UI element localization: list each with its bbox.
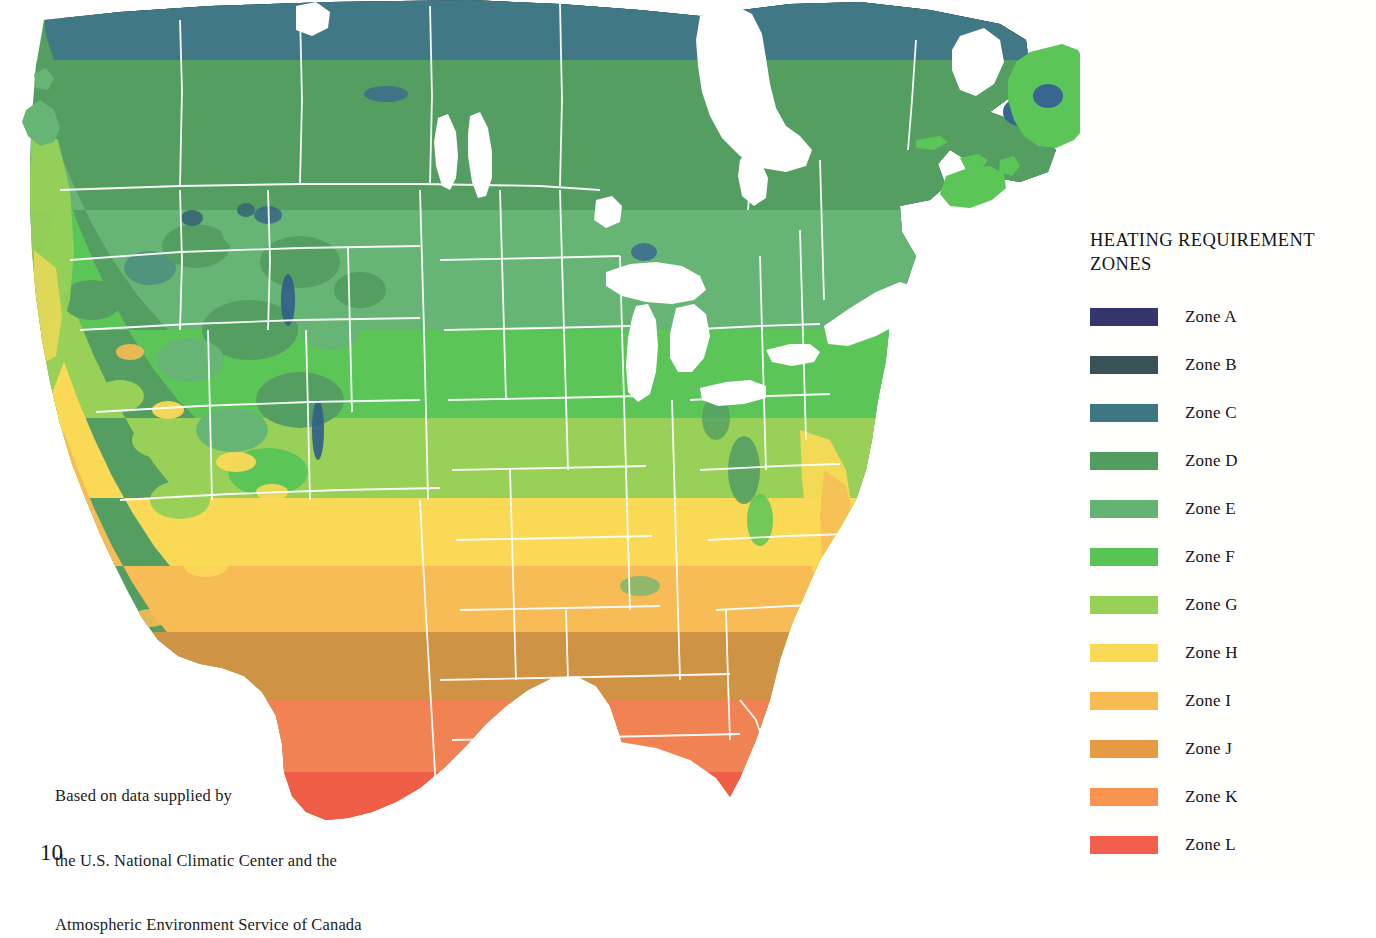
legend-row: Zone J <box>1090 740 1370 788</box>
legend-swatch-zone-h <box>1090 644 1158 662</box>
legend-swatch-zone-i <box>1090 692 1158 710</box>
legend-label: Zone I <box>1185 688 1231 714</box>
legend-row: Zone I <box>1090 692 1370 740</box>
page-number: 10 <box>40 840 63 866</box>
legend-title-line-1: HEATING REQUIREMENT <box>1090 230 1315 250</box>
legend-swatch-zone-c <box>1090 404 1158 422</box>
legend-row: Zone B <box>1090 356 1370 404</box>
legend-swatch-zone-g <box>1090 596 1158 614</box>
legend-row: Zone E <box>1090 500 1370 548</box>
legend-label: Zone F <box>1185 544 1235 570</box>
legend-swatch-zone-l <box>1090 836 1158 854</box>
legend-row: Zone D <box>1090 452 1370 500</box>
legend-row: Zone H <box>1090 644 1370 692</box>
legend-row: Zone K <box>1090 788 1370 836</box>
legend-swatch-zone-k <box>1090 788 1158 806</box>
legend-label: Zone B <box>1185 352 1237 378</box>
legend-swatch-zone-d <box>1090 452 1158 470</box>
legend-label: Zone G <box>1185 592 1238 618</box>
legend-items: Zone AZone BZone CZone DZone EZone FZone… <box>1090 308 1370 884</box>
legend-title-line-2: ZONES <box>1090 254 1152 274</box>
map-legend: HEATING REQUIREMENTZONES Zone AZone BZon… <box>1090 228 1370 276</box>
legend-label: Zone E <box>1185 496 1236 522</box>
legend-label: Zone C <box>1185 400 1237 426</box>
legend-swatch-zone-f <box>1090 548 1158 566</box>
attribution-line-3: Atmospheric Environment Service of Canad… <box>55 914 362 936</box>
attribution-text: Based on data supplied by the U.S. Natio… <box>55 742 362 938</box>
legend-label: Zone K <box>1185 784 1238 810</box>
legend-row: Zone C <box>1090 404 1370 452</box>
legend-row: Zone L <box>1090 836 1370 884</box>
heating-zone-map: Based on data supplied by the U.S. Natio… <box>0 0 1080 881</box>
legend-label: Zone A <box>1185 304 1237 330</box>
legend-swatch-zone-a <box>1090 308 1158 326</box>
legend-label: Zone D <box>1185 448 1238 474</box>
legend-title: HEATING REQUIREMENTZONES <box>1090 228 1370 276</box>
attribution-line-1: Based on data supplied by <box>55 785 362 807</box>
legend-label: Zone L <box>1185 832 1236 858</box>
legend-swatch-zone-j <box>1090 740 1158 758</box>
legend-label: Zone H <box>1185 640 1238 666</box>
legend-swatch-zone-e <box>1090 500 1158 518</box>
legend-row: Zone F <box>1090 548 1370 596</box>
attribution-line-2: the U.S. National Climatic Center and th… <box>55 850 362 872</box>
legend-label: Zone J <box>1185 736 1232 762</box>
legend-swatch-zone-b <box>1090 356 1158 374</box>
legend-row: Zone G <box>1090 596 1370 644</box>
legend-row: Zone A <box>1090 308 1370 356</box>
